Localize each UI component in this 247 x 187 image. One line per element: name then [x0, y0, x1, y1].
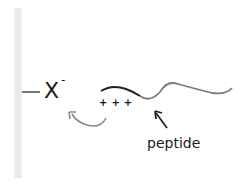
peptide-charges: +++ [99, 98, 136, 108]
attraction-arrow-icon [72, 114, 106, 126]
peptide-label: peptide [147, 135, 200, 151]
peptide-charged-segment [101, 87, 140, 96]
pointer-arrow-icon [156, 113, 167, 128]
linker-charge: - [61, 74, 65, 86]
peptide-chain [140, 83, 232, 99]
diagram-graphics [0, 0, 247, 187]
linker-label: X [44, 80, 59, 102]
